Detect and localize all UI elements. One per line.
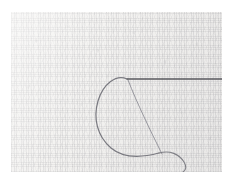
weave-weft-texture xyxy=(11,12,222,172)
fabric-fiber-specks xyxy=(11,12,222,172)
fabric-ground xyxy=(11,12,222,172)
weave-warp-texture xyxy=(11,12,222,172)
paper-margin-bottom xyxy=(0,172,228,179)
paper-margin-right xyxy=(222,0,228,179)
photograph-frame xyxy=(0,0,228,179)
weave-grain-texture xyxy=(11,12,222,172)
paper-margin-left xyxy=(0,0,11,179)
scan-lighting-shade xyxy=(11,12,222,172)
paper-margin-top xyxy=(0,0,228,12)
